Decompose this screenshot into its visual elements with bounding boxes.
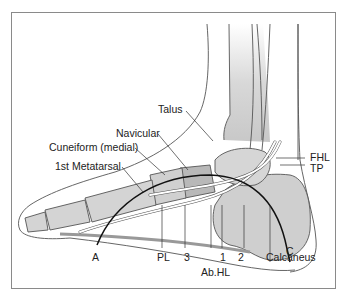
- label-2: 2: [238, 252, 244, 263]
- tibia-bone: [224, 24, 270, 150]
- label-pl: PL: [157, 252, 170, 263]
- distal-phalanx: [25, 212, 48, 232]
- label-first-metatarsal: 1st Metatarsal: [55, 161, 121, 172]
- label-fhl: FHL: [310, 152, 330, 163]
- label-talus: Talus: [158, 104, 183, 115]
- label-tp: TP: [310, 163, 323, 174]
- label-1: 1: [220, 252, 226, 263]
- label-3: 3: [184, 252, 190, 263]
- label-point-c: C: [286, 246, 294, 257]
- label-cuneiform-medial: Cuneiform (medial): [49, 142, 138, 153]
- label-abhl: Ab.HL: [201, 267, 230, 278]
- label-point-a: A: [92, 252, 99, 263]
- first-metatarsal-bone: [85, 180, 156, 222]
- proximal-phalanx: [45, 200, 90, 230]
- label-navicular: Navicular: [116, 128, 160, 139]
